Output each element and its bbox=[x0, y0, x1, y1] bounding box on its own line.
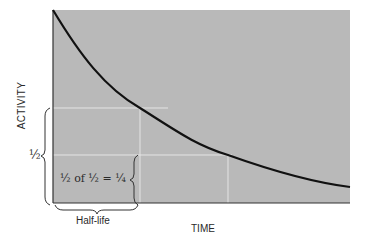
decay-chart bbox=[0, 0, 365, 245]
x-axis-label: TIME bbox=[191, 223, 215, 234]
half-life-brace bbox=[55, 205, 138, 214]
half-label: ½ bbox=[29, 148, 41, 162]
half-brace bbox=[41, 108, 50, 205]
y-axis-label: ACTIVITY bbox=[16, 82, 27, 129]
quarter-label: ½ of ½ = ¼ bbox=[60, 172, 126, 185]
half-life-label: Half-life bbox=[76, 215, 110, 226]
